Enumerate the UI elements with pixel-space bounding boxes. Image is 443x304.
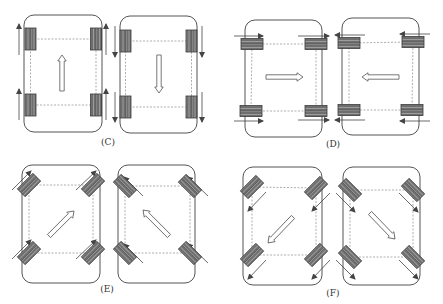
mecanum-wheel: [186, 96, 197, 118]
mecanum-wheel: [91, 94, 102, 116]
panel-label-f: (F): [326, 288, 339, 298]
mecanum-wheel: [338, 178, 361, 201]
panel-label-d: (D): [326, 139, 340, 149]
mecanum-wheel: [120, 30, 131, 52]
robot-right: [335, 18, 430, 135]
mecanum-wheel: [338, 105, 360, 116]
mecanum-wheel: [178, 174, 201, 197]
panel-label-e: (E): [100, 284, 114, 294]
robot-left: [12, 165, 105, 283]
mecanum-wheel: [25, 28, 36, 50]
wheelbase-dashed-outline: [29, 185, 93, 253]
mecanum-wheel: [17, 173, 40, 196]
mecanum-wheel: [91, 28, 102, 50]
mecanum-wheel: [338, 245, 361, 268]
mecanum-wheel: [304, 176, 327, 199]
mecanum-wheel: [241, 39, 263, 50]
mecanum-wheel: [81, 173, 104, 196]
body-direction-arrow: [367, 210, 398, 242]
body-direction-arrow: [265, 214, 296, 246]
robot-left: [240, 167, 330, 285]
body-direction-arrow: [58, 55, 66, 91]
mecanum-wheel: [25, 94, 36, 116]
mecanum-wheel-motion-diagram: [0, 0, 443, 304]
mecanum-wheel: [113, 241, 136, 264]
panel-label-c: (C): [101, 137, 115, 147]
panel-e: [12, 165, 208, 283]
robot-right: [113, 165, 208, 283]
panel-f: [240, 167, 424, 285]
mecanum-wheel: [113, 174, 136, 197]
mecanum-wheel: [401, 178, 424, 201]
robot-left: [19, 15, 106, 132]
body-direction-arrow: [140, 207, 172, 239]
body-direction-arrow: [362, 73, 399, 81]
panels-layer: [12, 15, 430, 285]
mecanum-wheel: [178, 241, 201, 264]
panel-d: [234, 18, 430, 137]
body-direction-arrow: [155, 55, 163, 93]
mecanum-wheel: [401, 105, 423, 116]
wheelbase-dashed-outline: [125, 186, 190, 253]
mecanum-wheel: [338, 38, 360, 49]
robot-right: [115, 16, 202, 133]
mecanum-wheel: [240, 175, 263, 198]
mecanum-wheel: [120, 96, 131, 118]
mecanum-wheel: [401, 245, 424, 268]
mecanum-wheel: [304, 243, 327, 266]
mecanum-wheel: [240, 243, 263, 266]
body-direction-arrow: [266, 73, 303, 81]
mecanum-wheel: [402, 37, 424, 48]
panel-c: [19, 15, 202, 133]
mecanum-wheel: [305, 106, 327, 117]
robot-left: [234, 20, 329, 137]
mecanum-wheel: [186, 30, 197, 52]
mecanum-wheel: [17, 241, 40, 264]
mecanum-wheel: [305, 39, 327, 50]
body-direction-arrow: [46, 208, 77, 239]
mecanum-wheel: [81, 241, 104, 264]
robot-right: [336, 167, 425, 285]
mecanum-wheel: [240, 106, 262, 117]
